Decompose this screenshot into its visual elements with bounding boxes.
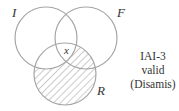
label-R: R — [97, 84, 105, 97]
label-F: F — [117, 6, 125, 19]
x-marker: x — [64, 45, 69, 56]
label-I: I — [12, 6, 16, 19]
caption-name: (Disamis) — [128, 77, 178, 91]
caption-form: IAI-3 — [128, 49, 178, 63]
caption: IAI-3 valid (Disamis) — [128, 49, 178, 91]
caption-validity: valid — [128, 63, 178, 77]
